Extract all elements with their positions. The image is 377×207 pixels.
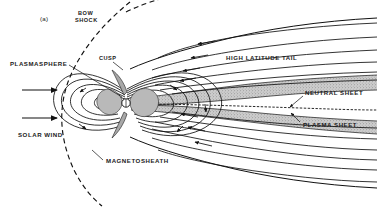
neutral-sheet-label: NEUTRAL SHEET	[305, 89, 363, 96]
high-latitude-tail-label: HIGH LATITUDE TAIL	[226, 54, 297, 61]
solar-wind-label: SOLAR WIND	[18, 131, 63, 138]
solar-wind-arrows	[22, 90, 57, 118]
cusp-label: CUSP	[99, 55, 117, 61]
figure-container: (a) BOW SHOCK PLASMASPHERE CUSP SOLAR WI…	[0, 0, 377, 207]
panel-label: (a)	[40, 15, 48, 22]
plasma-sheet-label: PLASMA SHEET	[303, 121, 357, 128]
bow-shock-label-line2: SHOCK	[75, 17, 98, 23]
plasmasphere-label: PLASMASPHERE	[10, 60, 67, 67]
magnetosphere-diagram: (a) BOW SHOCK PLASMASPHERE CUSP SOLAR WI…	[0, 0, 377, 207]
magnetosheath-label: MAGNETOSHEATH	[106, 157, 169, 164]
bow-shock-label-line1: BOW	[78, 10, 93, 16]
earth-body	[122, 99, 130, 107]
